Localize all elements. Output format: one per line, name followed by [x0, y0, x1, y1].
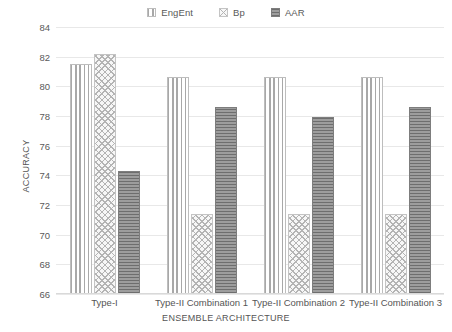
y-axis-tick-label: 74: [39, 170, 50, 181]
x-axis-tick-label: Type-II Combination 1: [155, 297, 248, 308]
y-axis-tick-label: 68: [39, 259, 50, 270]
x-axis-tick-label: Type-II Combination 3: [349, 297, 442, 308]
y-axis-title-host: ACCURACY: [14, 0, 28, 332]
bar-group: [153, 27, 250, 294]
y-axis-tick-label: 78: [39, 111, 50, 122]
x-axis-tick-label: Type-I: [91, 297, 117, 308]
bar-chart: EngEnt Bp AAR ACCURACY 84828078767472706…: [0, 0, 452, 332]
bar-group: [250, 27, 347, 294]
bar-aar: [118, 171, 140, 294]
bar-group: [56, 27, 153, 294]
legend-label-engent: EngEnt: [161, 8, 193, 18]
x-axis-tick-labels: Type-IType-II Combination 1Type-II Combi…: [56, 297, 444, 311]
y-axis-tick-label: 80: [39, 81, 50, 92]
bar-bp: [385, 214, 407, 294]
y-axis-title: ACCURACY: [21, 111, 31, 221]
legend-item-aar: AAR: [271, 8, 305, 18]
bar-engent: [70, 64, 92, 294]
bar-bp: [288, 214, 310, 294]
bar-bp: [94, 54, 116, 294]
bar-engent: [167, 77, 189, 294]
bar-bp: [191, 214, 213, 294]
bar-aar: [409, 107, 431, 294]
y-axis-tick-label: 72: [39, 200, 50, 211]
bar-group: [347, 27, 444, 294]
legend-label-bp: Bp: [233, 8, 245, 18]
bar-aar: [215, 107, 237, 294]
y-axis-tick-label: 84: [39, 22, 50, 33]
chart-legend: EngEnt Bp AAR: [0, 8, 452, 18]
x-axis-title: ENSEMBLE ARCHITECTURE: [0, 313, 452, 323]
vertical-lines-swatch-icon: [147, 8, 156, 17]
bar-engent: [361, 77, 383, 294]
bar-engent: [264, 77, 286, 294]
y-axis-tick-label: 82: [39, 51, 50, 62]
legend-label-aar: AAR: [285, 8, 305, 18]
x-axis-tick-label: Type-II Combination 2: [252, 297, 345, 308]
legend-item-engent: EngEnt: [147, 8, 193, 18]
legend-item-bp: Bp: [219, 8, 245, 18]
y-axis-tick-label: 76: [39, 140, 50, 151]
gridline: [56, 294, 444, 295]
plot-area: [56, 27, 444, 294]
horizontal-lines-swatch-icon: [271, 8, 280, 17]
y-axis-tick-label: 66: [39, 289, 50, 300]
bar-aar: [312, 117, 334, 294]
x-axis-line: [56, 293, 444, 294]
y-axis-tick-label: 70: [39, 229, 50, 240]
crosshatch-swatch-icon: [219, 8, 228, 17]
